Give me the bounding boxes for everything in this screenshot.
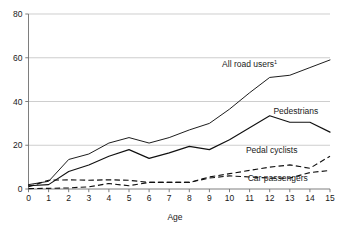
x-tick-label-1: 1	[46, 193, 51, 203]
y-tick-label-20: 20	[13, 140, 23, 150]
series-label-pedal-cyclists: Pedal cyclists	[246, 145, 298, 155]
footnote-marker: 1	[274, 59, 277, 65]
x-tick-label-7: 7	[167, 193, 172, 203]
axes	[25, 14, 330, 192]
x-axis-title: Age	[167, 212, 182, 222]
series-lines	[29, 60, 331, 189]
x-tick-label-5: 5	[127, 193, 132, 203]
x-tick-label-8: 8	[187, 193, 192, 203]
x-tick-label-15: 15	[325, 193, 335, 203]
y-tick-label-40: 40	[13, 97, 23, 107]
x-tick-label-14: 14	[305, 193, 315, 203]
x-tick-label-9: 9	[207, 193, 212, 203]
line-chart: 020406080 0123456789101112131415 All roa…	[0, 0, 338, 225]
x-tick-label-3: 3	[86, 193, 91, 203]
x-tick-label-13: 13	[285, 193, 295, 203]
y-tick-label-0: 0	[18, 184, 23, 194]
x-tick-label-0: 0	[26, 193, 31, 203]
y-tick-labels: 020406080	[13, 9, 23, 194]
gridlines	[29, 14, 331, 145]
x-tick-label-12: 12	[265, 193, 275, 203]
x-tick-label-11: 11	[245, 193, 254, 203]
series-label-pedestrians: Pedestrians	[273, 106, 318, 116]
chart-figure: 020406080 0123456789101112131415 All roa…	[0, 0, 338, 225]
x-tick-label-4: 4	[107, 193, 112, 203]
series-line-all-road-users	[29, 60, 331, 185]
series-label-all-road-users: All road users1	[222, 59, 277, 69]
y-tick-label-60: 60	[13, 53, 23, 63]
x-tick-label-2: 2	[66, 193, 71, 203]
series-label-car-passengers: Car passengers	[248, 173, 308, 183]
x-tick-label-6: 6	[147, 193, 152, 203]
x-tick-label-10: 10	[225, 193, 235, 203]
x-tick-labels: 0123456789101112131415	[26, 193, 335, 203]
y-tick-label-80: 80	[13, 9, 23, 19]
